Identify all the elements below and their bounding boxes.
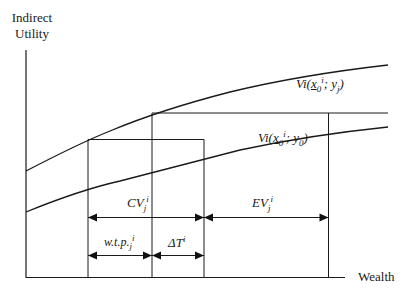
cv-arrow bbox=[88, 214, 204, 222]
ev-label: EVji bbox=[252, 196, 273, 209]
y-axis-title-line2: Utility bbox=[7, 26, 57, 42]
y-axis-title: Indirect Utility bbox=[7, 10, 57, 42]
lower-curve-label: Vi(x0i; y0) bbox=[258, 131, 308, 144]
lower-utility-curve bbox=[26, 127, 388, 212]
wtp-arrow bbox=[88, 252, 152, 260]
y-axis-title-line1: Indirect bbox=[7, 10, 57, 26]
ev-arrow bbox=[204, 214, 329, 222]
cv-label: CVji bbox=[127, 196, 149, 209]
diagram-canvas bbox=[0, 0, 412, 289]
x-axis-title: Wealth bbox=[358, 270, 395, 283]
upper-curve-label: Vi(x0i; yj) bbox=[296, 77, 344, 90]
wtp-label: w.t.p.ji bbox=[104, 236, 134, 248]
delta-t-label: ΔTi bbox=[168, 236, 185, 249]
delta-t-arrow bbox=[152, 252, 204, 260]
